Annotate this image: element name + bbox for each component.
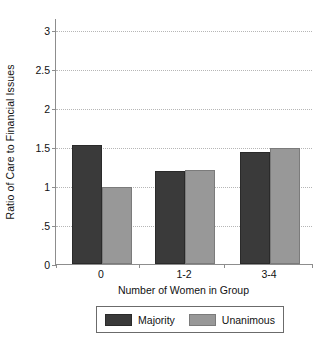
y-axis-tick-label: .5 (20, 220, 56, 232)
bar-unanimous-1-2[interactable] (185, 170, 215, 264)
y-axis-tick-label: 1.5 (20, 142, 56, 154)
x-axis-title: Number of Women in Group (55, 284, 312, 296)
bar-majority-0[interactable] (72, 145, 102, 264)
legend-entry-unanimous[interactable]: Unanimous (189, 314, 275, 326)
bar-chart-figure: Ratio of Care to Financial Issues 0.511.… (0, 0, 336, 341)
x-axis-tick-mark (56, 264, 57, 268)
bar-group (240, 19, 300, 264)
y-axis-tick-label: 2.5 (20, 64, 56, 76)
bar-majority-1-2[interactable] (155, 171, 185, 264)
y-axis-tick-label: 2 (20, 103, 56, 115)
legend-entry-majority[interactable]: Majority (105, 314, 175, 326)
bar-unanimous-0[interactable] (102, 187, 132, 264)
x-axis-tick-mark (139, 264, 140, 268)
legend-swatch-majority (105, 314, 132, 326)
y-axis-tick-label: 0 (20, 259, 56, 271)
legend-label-majority: Majority (138, 314, 175, 326)
y-axis-title: Ratio of Care to Financial Issues (0, 19, 20, 265)
bar-majority-3-4[interactable] (240, 152, 270, 264)
y-axis-title-text: Ratio of Care to Financial Issues (4, 64, 16, 219)
bar-group (155, 19, 215, 264)
x-axis-tick-mark (224, 264, 225, 268)
y-axis-tick-label: 1 (20, 181, 56, 193)
x-axis-tick-label-3-4: 3-4 (239, 268, 299, 280)
legend-label-unanimous: Unanimous (222, 314, 275, 326)
bar-unanimous-3-4[interactable] (270, 148, 300, 264)
chart-legend: MajorityUnanimous (96, 306, 284, 333)
legend-swatch-unanimous (189, 314, 216, 326)
y-axis-tick-label: 3 (20, 25, 56, 37)
x-axis-tick-mark (312, 264, 313, 268)
x-axis-tick-label-0: 0 (71, 268, 131, 280)
bar-group (72, 19, 132, 264)
plot-area: 0.511.522.53 (55, 19, 312, 265)
x-axis-tick-label-1-2: 1-2 (154, 268, 214, 280)
bars-layer (56, 19, 312, 264)
